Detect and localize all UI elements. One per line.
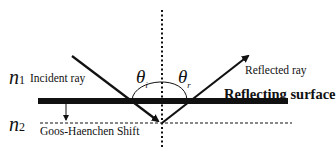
medium2-label: n2 bbox=[9, 113, 25, 136]
theta-incident-label: θi bbox=[136, 66, 148, 90]
incident-ray-label: Incident ray bbox=[30, 72, 85, 84]
medium1-subscript: 1 bbox=[19, 73, 25, 87]
theta-i-symbol: θ bbox=[136, 66, 145, 87]
theta-r-subscript: r bbox=[187, 80, 191, 90]
medium2-symbol: n bbox=[9, 113, 19, 135]
reflected-ray-label: Reflected ray bbox=[245, 64, 307, 76]
medium1-symbol: n bbox=[9, 66, 19, 88]
medium2-subscript: 2 bbox=[19, 120, 25, 134]
goos-haenchen-shift-label: Goos-Haenchen Shift bbox=[40, 125, 139, 137]
theta-i-subscript: i bbox=[145, 80, 148, 90]
reflecting-surface-label: Reflecting surface bbox=[224, 86, 336, 103]
theta-reflected-label: θr bbox=[178, 66, 191, 90]
medium1-label: n1 bbox=[9, 66, 25, 89]
theta-r-symbol: θ bbox=[178, 66, 187, 87]
